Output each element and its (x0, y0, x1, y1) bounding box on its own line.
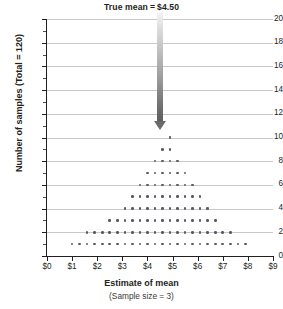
y-tick-minor (43, 149, 47, 150)
y-tick-label: 18 (245, 37, 283, 46)
x-tick (173, 257, 174, 261)
gridline (47, 209, 273, 210)
data-point-dot (206, 207, 209, 210)
gridline (47, 161, 273, 162)
data-point-dot (176, 243, 179, 246)
data-point-dot (191, 243, 194, 246)
data-point-dot (139, 219, 142, 222)
y-tick (42, 161, 46, 162)
data-point-dot (108, 231, 111, 234)
data-point-dot (221, 243, 224, 246)
data-point-dot (199, 243, 202, 246)
x-axis-line (46, 256, 274, 257)
data-point-dot (124, 231, 127, 234)
true-mean-arrow-head (154, 121, 166, 130)
data-point-dot (108, 243, 111, 246)
x-axis-subtitle: (Sample size = 3) (0, 291, 283, 301)
y-tick-label: 2 (245, 227, 283, 236)
x-tick (72, 257, 73, 261)
data-point-dot (154, 231, 157, 234)
y-tick-minor (43, 197, 47, 198)
x-tick (248, 257, 249, 261)
data-point-dot (191, 219, 194, 222)
data-point-dot (199, 195, 202, 198)
y-tick-label: 12 (245, 108, 283, 117)
data-point-dot (169, 219, 172, 222)
y-tick-label: 20 (245, 14, 283, 23)
data-point-dot (169, 195, 172, 198)
data-point-dot (154, 243, 157, 246)
data-point-dot (199, 219, 202, 222)
data-point-dot (139, 231, 142, 234)
y-tick (42, 90, 46, 91)
y-tick-minor (43, 173, 47, 174)
data-point-dot (131, 231, 134, 234)
data-point-dot (146, 231, 149, 234)
data-point-dot (237, 243, 240, 246)
data-point-dot (161, 207, 164, 210)
data-point-dot (169, 231, 172, 234)
y-tick (42, 19, 46, 20)
data-point-dot (78, 243, 81, 246)
data-point-dot (244, 243, 247, 246)
x-tick-label: $6 (186, 262, 210, 271)
data-point-dot (214, 219, 217, 222)
data-point-dot (176, 184, 179, 187)
x-tick-label: $7 (211, 262, 235, 271)
gridline (47, 232, 273, 233)
data-point-dot (191, 184, 194, 187)
x-tick (147, 257, 148, 261)
data-point-dot (124, 207, 127, 210)
data-point-dot (146, 184, 149, 187)
data-point-dot (214, 231, 217, 234)
data-point-dot (154, 219, 157, 222)
y-tick (42, 185, 46, 186)
data-point-dot (146, 243, 149, 246)
data-point-dot (206, 243, 209, 246)
data-point-dot (93, 243, 96, 246)
data-point-dot (191, 207, 194, 210)
data-point-dot (131, 195, 134, 198)
true-mean-equals: = (148, 2, 157, 12)
data-point-dot (214, 243, 217, 246)
true-mean-arrow-shaft (157, 13, 163, 121)
true-mean-text: True mean (104, 2, 148, 12)
y-tick-minor (43, 102, 47, 103)
data-point-dot (101, 243, 104, 246)
data-point-dot (161, 148, 164, 151)
y-tick (42, 66, 46, 67)
data-point-dot (86, 243, 89, 246)
data-point-dot (139, 243, 142, 246)
data-point-dot (116, 219, 119, 222)
data-point-dot (146, 219, 149, 222)
data-point-dot (191, 195, 194, 198)
y-tick-minor (43, 220, 47, 221)
data-point-dot (71, 243, 74, 246)
data-point-dot (116, 231, 119, 234)
data-point-dot (116, 243, 119, 246)
data-point-dot (124, 243, 127, 246)
data-point-dot (124, 219, 127, 222)
y-tick-minor (43, 126, 47, 127)
data-point-dot (131, 219, 134, 222)
y-tick (42, 114, 46, 115)
y-tick-minor (43, 244, 47, 245)
data-point-dot (161, 172, 164, 175)
data-point-dot (146, 195, 149, 198)
y-tick-label: 16 (245, 61, 283, 70)
data-point-dot (93, 231, 96, 234)
data-point-dot (131, 207, 134, 210)
data-point-dot (229, 231, 232, 234)
x-tick (198, 257, 199, 261)
x-tick (47, 257, 48, 261)
true-mean-value: $4.50 (157, 2, 179, 12)
data-point-dot (176, 195, 179, 198)
x-tick-label: $4 (135, 262, 159, 271)
y-tick-minor (43, 31, 47, 32)
dot-plot-chart: True mean=$4.50 02468101214161820 $0$1$2… (0, 0, 283, 309)
data-point-dot (131, 243, 134, 246)
y-tick (42, 256, 46, 257)
data-point-dot (146, 172, 149, 175)
y-axis-title: Number of samples (Total = 120) (14, 18, 24, 188)
y-tick (42, 138, 46, 139)
